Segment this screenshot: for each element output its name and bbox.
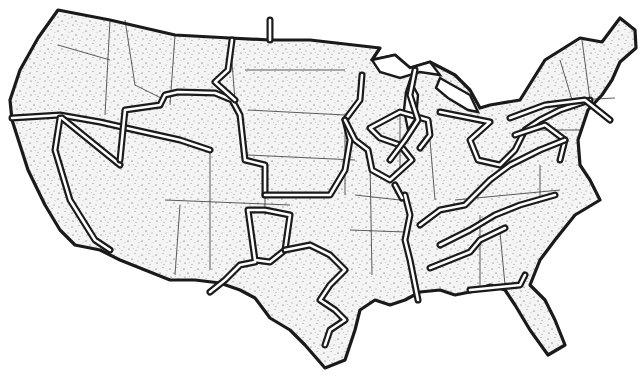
us-regions-map <box>0 0 643 379</box>
